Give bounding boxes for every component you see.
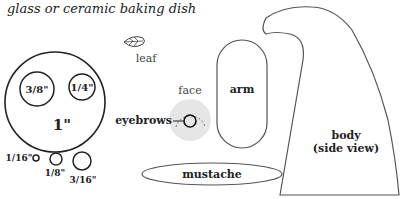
- circle-1-8-label: 1/8": [45, 168, 66, 178]
- face-shape: [169, 99, 211, 141]
- mustache-piece: mustache: [142, 163, 282, 185]
- big-circle-label: 1": [53, 116, 71, 134]
- circle-1-16-piece: 1/16": [6, 153, 39, 163]
- circle-3-8-piece: 3/8": [20, 72, 54, 106]
- circle-1-4-piece: 1/4": [69, 74, 95, 100]
- face-label: face: [178, 84, 201, 97]
- eyebrows-label: eyebrows: [115, 114, 172, 127]
- circle-1-4-label: 1/4": [71, 82, 94, 93]
- body-label-line2: (side view): [313, 142, 379, 155]
- body-piece: body (side view): [263, 7, 399, 195]
- template-diagram: 1" 3/8" 1/4" 1/16" 1/8" 3/16" leaf face …: [0, 0, 402, 199]
- circle-3-16-piece: 3/16": [70, 152, 97, 185]
- circle-1-8-piece: 1/8": [45, 153, 66, 178]
- leaf-label: leaf: [136, 52, 158, 65]
- leaf-piece: leaf: [124, 37, 157, 65]
- mustache-label: mustache: [182, 168, 242, 181]
- circle-1-16-label: 1/16": [6, 153, 33, 163]
- arm-piece: arm: [217, 40, 267, 148]
- arm-label: arm: [230, 83, 255, 96]
- big-circle-piece: 1": [5, 52, 105, 152]
- circle-3-8-label: 3/8": [26, 84, 49, 95]
- face-piece: face eyebrows: [115, 84, 211, 141]
- body-label-line1: body: [331, 129, 361, 142]
- circle-3-16-label: 3/16": [70, 175, 97, 185]
